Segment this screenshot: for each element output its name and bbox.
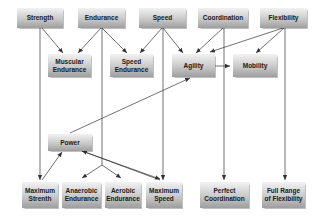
node-speed-endurance: Speed Endurance: [110, 54, 153, 77]
node-maximum-speed: Maximum Speed: [146, 182, 182, 208]
node-muscular-endurance: Muscular Endurance: [48, 54, 91, 77]
node-speed: Speed: [139, 8, 186, 28]
node-anaerobic-endurance: Anaerobic Endurance: [62, 182, 101, 208]
node-agility: Agility: [172, 54, 215, 77]
node-endurance: Endurance: [78, 8, 125, 28]
node-aerobic-endurance: Aerobic Endurance: [105, 182, 141, 208]
node-power: Power: [48, 134, 92, 151]
node-flexibility: Flexibility: [260, 8, 307, 28]
node-maximum-strenth: Maximum Strenth: [22, 182, 58, 208]
node-strength: Strength: [17, 8, 63, 28]
node-mobility: Mobility: [233, 54, 277, 77]
node-coordination: Coordination: [198, 8, 248, 28]
node-full-range-of-flexibility: Full Range of Flexibility: [262, 182, 305, 208]
node-perfect-coordination: Perfect Coordination: [200, 182, 249, 208]
